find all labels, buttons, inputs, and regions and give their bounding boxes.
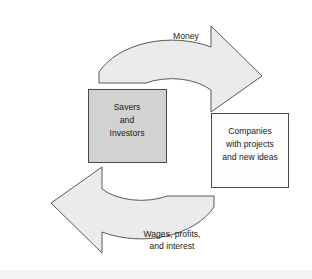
companies-box-line-3: and new ideas: [222, 152, 277, 162]
circular-flow-diagram: Savers and Investors Companies with proj…: [0, 0, 312, 279]
money-flow-label: Money: [173, 31, 199, 41]
companies-box-line-2: with projects: [225, 139, 274, 149]
flow-diagram-canvas: Savers and Investors Companies with proj…: [0, 0, 312, 279]
savers-box-line-3: Investors: [110, 128, 145, 138]
savers-box-line-1: Savers: [114, 102, 141, 112]
savers-box-line-2: and: [120, 115, 135, 125]
returns-flow-arrow-band: [51, 167, 214, 253]
companies-box-line-1: Companies: [228, 126, 271, 136]
savers-and-investors-box[interactable]: [89, 90, 167, 163]
returns-flow-label-line-2: and interest: [150, 241, 196, 251]
bottom-edge-band: [0, 270, 312, 279]
companies-with-projects-box[interactable]: [212, 114, 289, 188]
returns-flow-label-line-1: Wages, profits,: [144, 229, 201, 239]
